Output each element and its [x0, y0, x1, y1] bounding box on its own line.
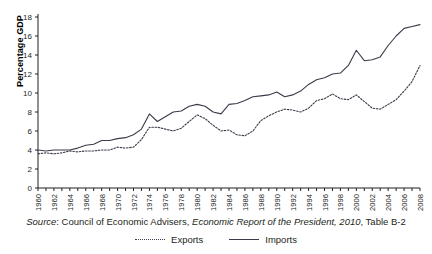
svg-text:1986: 1986	[241, 194, 250, 211]
legend-label-exports: Exports	[171, 235, 203, 245]
svg-text:1996: 1996	[321, 194, 330, 211]
svg-text:1980: 1980	[193, 194, 202, 211]
svg-text:18: 18	[23, 13, 32, 22]
svg-text:1972: 1972	[130, 194, 139, 211]
svg-text:1970: 1970	[114, 194, 123, 211]
svg-text:1990: 1990	[273, 194, 282, 211]
legend-label-imports: Imports	[265, 235, 297, 245]
svg-text:1994: 1994	[305, 194, 314, 211]
svg-text:16: 16	[23, 32, 32, 41]
svg-text:1982: 1982	[209, 194, 218, 211]
svg-text:1966: 1966	[82, 194, 91, 211]
svg-text:8: 8	[28, 108, 33, 117]
legend-entry-exports: Exports	[135, 235, 203, 245]
svg-text:1998: 1998	[336, 194, 345, 211]
svg-text:1968: 1968	[98, 194, 107, 211]
svg-text:1974: 1974	[145, 194, 154, 211]
source-caption: Source: Council of Economic Advisers, Ec…	[0, 216, 432, 227]
svg-text:2000: 2000	[352, 194, 361, 211]
svg-text:1978: 1978	[177, 194, 186, 211]
svg-text:1984: 1984	[225, 194, 234, 211]
svg-text:2002: 2002	[368, 194, 377, 211]
svg-text:1976: 1976	[161, 194, 170, 211]
source-prefix-italic: Source	[26, 216, 56, 227]
source-suffix: , Table B-2	[361, 216, 406, 227]
legend-entry-imports: Imports	[229, 235, 297, 245]
svg-text:1962: 1962	[50, 194, 59, 211]
svg-text:2004: 2004	[384, 194, 393, 211]
svg-text:1964: 1964	[66, 194, 75, 211]
svg-text:1988: 1988	[257, 194, 266, 211]
svg-text:2: 2	[28, 165, 33, 174]
legend-swatch-dashed-icon	[135, 239, 165, 241]
svg-text:2008: 2008	[416, 194, 425, 211]
svg-text:12: 12	[23, 70, 32, 79]
source-publication: Economic Report of the President, 2010	[192, 216, 360, 227]
svg-text:1960: 1960	[34, 194, 43, 211]
line-chart-svg: 0246810121416181960196219641966196819701…	[0, 0, 432, 215]
svg-text:4: 4	[28, 146, 33, 155]
figure-container: Percentage GDP 0246810121416181960196219…	[0, 0, 432, 254]
source-prefix-rest: : Council of Economic Advisers,	[56, 216, 192, 227]
svg-text:1992: 1992	[289, 194, 298, 211]
svg-text:6: 6	[28, 127, 33, 136]
svg-text:14: 14	[23, 51, 32, 60]
svg-text:2006: 2006	[400, 194, 409, 211]
svg-text:10: 10	[23, 89, 32, 98]
chart-legend: Exports Imports	[0, 235, 432, 245]
legend-swatch-solid-icon	[229, 239, 259, 241]
chart-plot-area: Percentage GDP 0246810121416181960196219…	[0, 0, 432, 215]
svg-text:0: 0	[28, 184, 33, 193]
